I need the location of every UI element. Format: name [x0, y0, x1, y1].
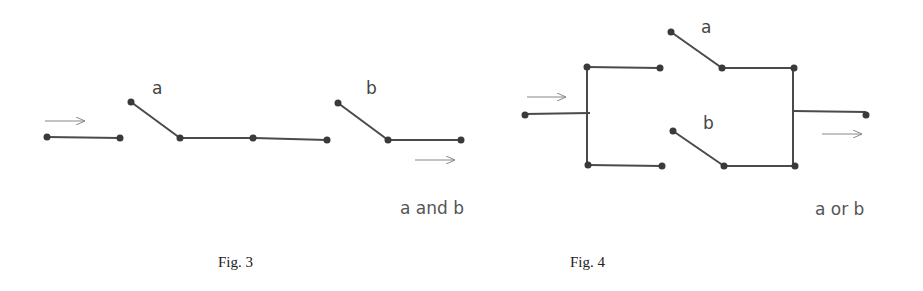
switch-b-label: b	[703, 113, 714, 133]
fig3-caption: Fig. 3	[218, 254, 253, 271]
switch-b-label: b	[366, 78, 377, 98]
switch-a-lever	[671, 32, 722, 68]
operation-label: a or b	[815, 199, 864, 219]
upper-branch-wire	[587, 67, 660, 68]
logic-switch-diagrams: a b a and b a b a or b	[0, 0, 923, 291]
switch-b-lever	[338, 103, 388, 140]
fig4-parallel-circuit	[525, 32, 866, 166]
input-wire	[47, 137, 120, 138]
input-wire	[525, 113, 590, 114]
fig4-caption: Fig. 4	[570, 254, 605, 271]
operation-label: a and b	[400, 198, 464, 218]
switch-a-label: a	[701, 17, 711, 37]
fig3-series-circuit	[47, 102, 461, 140]
fig3-nodes	[44, 99, 465, 144]
wire-segment	[253, 138, 327, 140]
switch-b-lever	[673, 131, 724, 166]
lower-branch-wire	[588, 165, 662, 166]
switch-a-lever	[131, 102, 180, 138]
output-wire	[793, 111, 866, 112]
switch-a-label: a	[152, 78, 162, 98]
